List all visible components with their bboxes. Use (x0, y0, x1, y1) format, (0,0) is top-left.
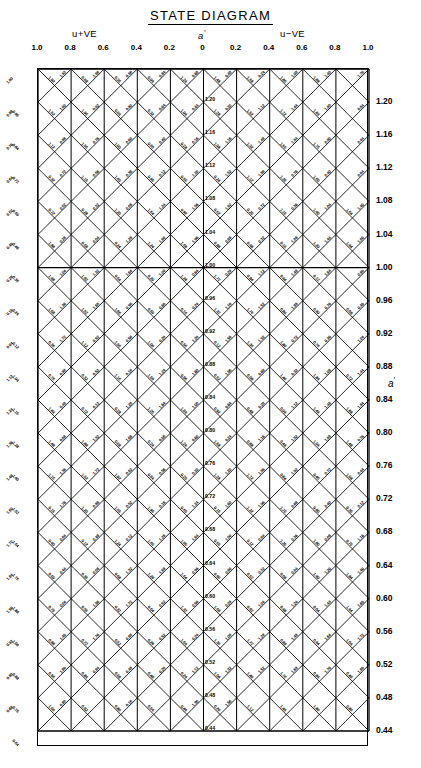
diag-label-up-15-0: 1.80 (356, 235, 365, 244)
diag-label-up-14-8: 1.72 (91, 466, 100, 475)
diag-label-up-20-5: 0.96 (191, 566, 200, 575)
diag-label-down-6-1: 0.36 (80, 571, 89, 580)
diag-label-down-10-9: 0.80 (345, 704, 354, 713)
diag-label-up-18-0: 1.04 (356, 334, 365, 343)
diag-label-down-7-6: 1.12 (246, 704, 255, 713)
diag-label-down-19-6: 1.76 (246, 307, 255, 316)
diag-label-down-11-0: 0.76 (47, 373, 56, 382)
outer-left-label-b-11: 1.40 (11, 473, 20, 482)
right-tick-1: 1.16 (376, 129, 393, 139)
center-line-label-10: 0.80 (205, 427, 215, 433)
state-diagram-plot: 1.000.960.920.880.840.800.760.720.680.64… (37, 68, 368, 746)
diag-label-down-22-4: 0.20 (246, 207, 255, 216)
diag-label-up-16-4: 0.64 (224, 400, 233, 409)
diag-label-down-11-6: 0.52 (246, 571, 255, 580)
diag-label-up-7-3: 0.12 (158, 168, 167, 177)
top-tick-0: 1.0 (31, 43, 42, 52)
top-tick-10: 1.0 (362, 43, 373, 52)
diag-label-down-16-4: 0.56 (180, 340, 189, 349)
diag-label-up-8-0: 1.08 (290, 69, 299, 78)
center-line-label-4: 1.04 (205, 229, 215, 235)
diag-label-up-18-5: 1.24 (191, 499, 200, 508)
diag-label-up-18-4: 1.20 (224, 466, 233, 475)
center-line-label-8: 0.88 (205, 361, 215, 367)
right-axis-title: a′ (388, 376, 395, 389)
diag-label-down-7-1: 0.12 (80, 538, 89, 547)
diag-label-up-12-2: 0.36 (290, 201, 299, 210)
top-tick-3: 0.4 (131, 43, 142, 52)
diag-label-down-19-5: 1.72 (213, 274, 222, 283)
center-line-label-12: 0.72 (205, 493, 215, 499)
diag-label-up-13-7: 1.28 (125, 400, 134, 409)
diag-label-up-15-8: 0.88 (91, 499, 100, 508)
diag-label-down-15-0: 1.88 (47, 240, 56, 249)
diag-label-up-19-0: 1.44 (356, 367, 365, 376)
diag-label-down-4-2: 0.68 (113, 671, 122, 680)
diag-label-up-16-5: 0.60 (191, 433, 200, 442)
diag-label-up-18-8: 1.36 (91, 599, 100, 608)
diag-label-down-22-3: 0.24 (213, 174, 222, 183)
diag-label-up-6-2: 0.40 (158, 135, 167, 144)
diag-label-down-22-6: 0.12 (312, 274, 321, 283)
diag-label-down-5-1: 0.56 (80, 605, 89, 614)
diag-label-down-26-0: 1.68 (246, 75, 255, 84)
diag-label-up-15-3: 1.92 (257, 334, 266, 343)
diag-label-down-9-1: 1.52 (80, 472, 89, 481)
diag-label-down-11-1: 0.72 (80, 406, 89, 415)
diag-label-down-14-7: 1.76 (279, 505, 288, 514)
diag-label-up-6-1: 0.44 (191, 102, 200, 111)
diag-label-down-12-0: 0.36 (47, 340, 56, 349)
diag-label-down-19-9: 1.88 (345, 406, 354, 415)
diag-label-down-6-2: 0.32 (113, 605, 122, 614)
diag-label-up-19-1: 1.48 (323, 400, 332, 409)
grid-svg: 1.000.960.920.880.840.800.760.720.680.64… (38, 69, 369, 747)
diag-label-up-20-4: 1.00 (224, 532, 233, 541)
diag-label-up-7-2: 0.16 (191, 135, 200, 144)
diag-label-down-12-4: 0.20 (180, 472, 189, 481)
diag-label-up-9-1: 1.44 (290, 102, 299, 111)
diag-label-down-27-0: 1.80 (279, 75, 288, 84)
center-line-label-17: 0.52 (205, 659, 215, 665)
diag-label-down-21-6: 0.44 (279, 274, 288, 283)
diag-label-down-26-1: 1.72 (279, 108, 288, 117)
outer-left-label-b-9: 1.16 (11, 407, 20, 416)
diag-label-up-12-6: 0.20 (158, 334, 167, 343)
diag-label-down-17-4: 0.16 (180, 307, 189, 316)
diag-label-up-16-1: 0.76 (323, 301, 332, 310)
diag-label-down-17-6: 0.08 (246, 373, 255, 382)
top-tick-9: 0.8 (329, 43, 340, 52)
outer-left-label-b-17: 0.88 (11, 672, 20, 681)
diag-label-up-20-9: 0.80 (58, 698, 67, 707)
diag-label-down-13-9: 1.44 (345, 605, 354, 614)
diag-label-down-18-5: 1.32 (213, 307, 222, 316)
right-axis: 1.201.161.121.081.041.000.960.920.880.84… (372, 68, 421, 758)
diag-label-up-14-2: 1.48 (290, 268, 299, 277)
diag-label-up-26-2: 1.68 (290, 665, 299, 674)
diag-label-down-15-4: 0.96 (180, 373, 189, 382)
diag-label-down-10-0: 1.84 (47, 406, 56, 415)
diag-label-up-1-0: 1.92 (58, 69, 67, 78)
diag-label-up-3-1: 0.92 (91, 102, 100, 111)
diag-label-down-15-9: 0.76 (345, 538, 354, 547)
diag-label-up-25-4: 1.56 (224, 698, 233, 707)
outer-left-label-b-0: 0.96 (11, 109, 20, 118)
top-tick-6: 0.2 (230, 43, 241, 52)
diag-label-down-3-1: 0.84 (80, 671, 89, 680)
diag-label-down-21-7: 0.40 (312, 307, 321, 316)
right-tick-9: 0.84 (376, 394, 393, 404)
diag-label-down-16-1: 0.68 (80, 240, 89, 249)
diag-label-up-11-9: 0.48 (58, 400, 67, 409)
diag-label-up-8-6: 1.32 (91, 268, 100, 277)
diag-label-down-23-4: 1.16 (279, 207, 288, 216)
diag-label-down-19-7: 1.80 (279, 340, 288, 349)
diag-label-down-6-5: 0.20 (213, 704, 222, 713)
diag-label-up-10-2: 1.84 (290, 135, 299, 144)
diag-label-up-13-3: 1.12 (257, 268, 266, 277)
diag-label-up-22-7: 0.16 (125, 698, 134, 707)
diag-label-down-10-1: 1.88 (80, 439, 89, 448)
diag-label-down-15-7: 0.84 (279, 472, 288, 481)
right-tick-2: 1.12 (376, 162, 393, 172)
diag-label-up-17-9: 0.04 (58, 599, 67, 608)
diag-label-down-24-5: 1.44 (345, 240, 354, 249)
diag-label-up-20-2: 1.92 (290, 466, 299, 475)
